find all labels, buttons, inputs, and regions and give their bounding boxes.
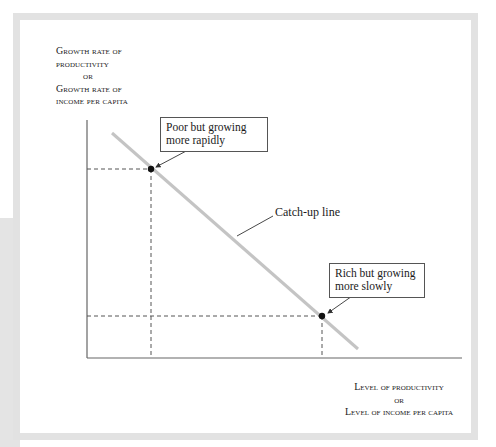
rich-callout-line2: more slowly: [335, 280, 419, 293]
poor-callout-line2: more rapidly: [166, 134, 262, 147]
poor-callout-line1: Poor but growing: [166, 121, 262, 134]
x-label-line2: Level of income per capita: [314, 406, 484, 419]
y-label-line1: Growth rate of: [56, 45, 196, 58]
rich-callout: Rich but growing more slowly: [329, 263, 425, 298]
y-label-or: or: [56, 70, 196, 83]
y-label-line4: income per capita: [56, 95, 196, 108]
x-axis-label: Level of productivity or Level of income…: [314, 381, 484, 419]
catch-up-leader: [237, 216, 273, 236]
poor-callout: Poor but growing more rapidly: [160, 117, 268, 152]
x-label-line1: Level of productivity: [314, 381, 484, 394]
rich-callout-line1: Rich but growing: [335, 267, 419, 280]
y-label-line2: productivity: [56, 58, 196, 71]
rich-point: [319, 313, 325, 319]
catch-up-line-label: Catch-up line: [275, 205, 340, 220]
y-axis-label: Growth rate of productivity or Growth ra…: [56, 45, 196, 108]
poor-point: [148, 166, 154, 172]
y-label-line3: Growth rate of: [56, 83, 196, 96]
x-label-or: or: [314, 394, 484, 407]
